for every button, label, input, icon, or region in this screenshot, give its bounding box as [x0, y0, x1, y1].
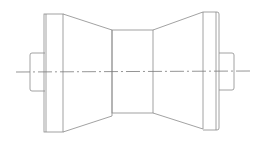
left-flange — [44, 14, 63, 132]
roller-drawing — [0, 0, 259, 142]
right-cone — [153, 12, 203, 129]
left-cone — [63, 14, 112, 132]
